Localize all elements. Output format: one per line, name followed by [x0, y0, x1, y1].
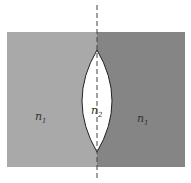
lens-diagram — [0, 0, 191, 183]
right-index-label: n1 — [137, 112, 149, 127]
left-index-label: n1 — [35, 110, 47, 125]
lens-index-label: n2 — [91, 104, 103, 119]
